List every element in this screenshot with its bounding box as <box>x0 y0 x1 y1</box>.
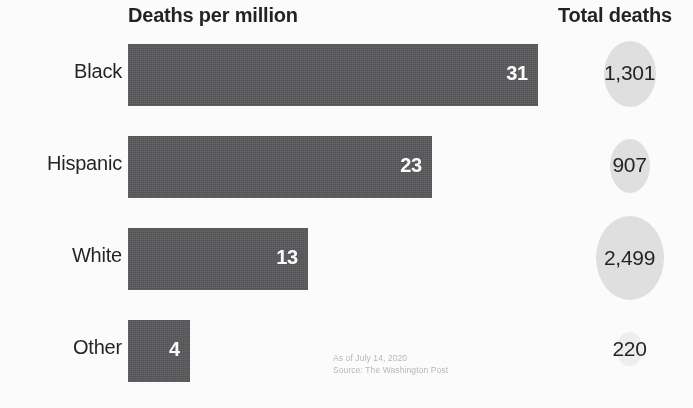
bar-value-other: 4 <box>169 338 180 361</box>
bar-chart: Black 31 1,301 Hispanic 23 907 White 13 <box>0 34 693 374</box>
category-label-other: Other <box>0 336 122 359</box>
total-value-black: 1,301 <box>566 61 693 85</box>
bar-value-hispanic: 23 <box>400 154 422 177</box>
chart-row: Hispanic 23 907 <box>0 126 693 218</box>
chart-footnote: As of July 14, 2020 Source: The Washingt… <box>333 353 448 376</box>
footnote-date: As of July 14, 2020 <box>333 353 448 365</box>
bar-white: 13 <box>128 228 308 290</box>
bar-value-white: 13 <box>276 246 298 269</box>
chart-row: Black 31 1,301 <box>0 34 693 126</box>
total-value-other: 220 <box>566 337 693 361</box>
category-label-hispanic: Hispanic <box>0 152 122 175</box>
total-value-hispanic: 907 <box>566 153 693 177</box>
chart-row: White 13 2,499 <box>0 218 693 310</box>
bar-hispanic: 23 <box>128 136 432 198</box>
total-value-white: 2,499 <box>566 246 693 270</box>
bar-value-black: 31 <box>506 62 528 85</box>
category-label-black: Black <box>0 60 122 83</box>
bar-other: 4 <box>128 320 190 382</box>
category-label-white: White <box>0 244 122 267</box>
total-deaths-header: Total deaths <box>558 4 672 27</box>
footnote-source: Source: The Washington Post <box>333 365 448 377</box>
bar-black: 31 <box>128 44 538 106</box>
deaths-per-million-header: Deaths per million <box>128 4 298 27</box>
